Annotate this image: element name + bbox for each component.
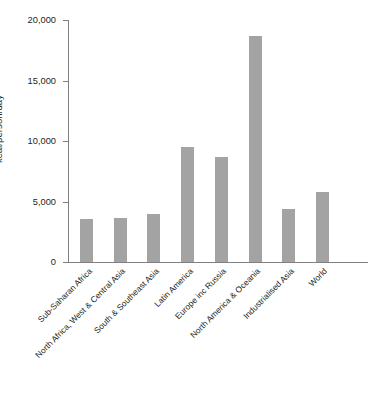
plot-area [68, 20, 368, 262]
y-axis-title: kcal/person/day [0, 34, 7, 224]
x-tick-label-text: South & Southeast Asia [92, 266, 161, 335]
x-axis-line [68, 262, 368, 263]
y-tick-label: 20,000 [10, 15, 56, 25]
y-tick-mark [63, 262, 68, 263]
y-tick-label: 5,000 [10, 197, 56, 207]
y-tick-label: 15,000 [10, 76, 56, 86]
y-tick-label: 10,000 [10, 136, 56, 146]
y-tick-label: 0 [10, 257, 56, 267]
x-tick-label-text: World [307, 266, 329, 288]
bar-chart: kcal/person/day 05,00010,00015,00020,000… [0, 0, 391, 402]
bar [80, 219, 93, 262]
